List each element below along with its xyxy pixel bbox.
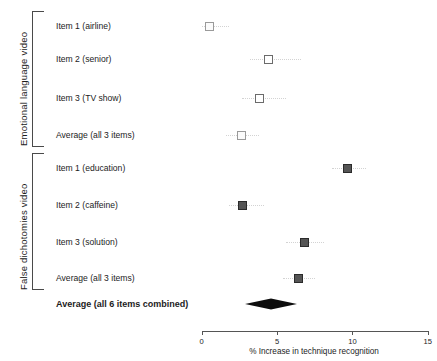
- x-axis-tick-5: [277, 331, 278, 335]
- row-label-item-1-education: Item 1 (education): [56, 164, 125, 173]
- marker-item-2-senior: [264, 55, 273, 64]
- whisker-item-2-senior: [250, 59, 301, 60]
- group-title-false-dichotomies-video: False dichotomies video: [18, 183, 29, 290]
- marker-average-emotional: [237, 131, 246, 140]
- group-bracket-false-dichotomies-video: [32, 153, 44, 290]
- row-label-item-2-caffeine: Item 2 (caffeine): [56, 201, 118, 210]
- x-axis-tick-15: [428, 331, 429, 335]
- row-label-item-1-airline: Item 1 (airline): [56, 22, 111, 31]
- row-label-average-emotional: Average (all 3 items): [56, 131, 135, 140]
- marker-item-3-solution: [300, 238, 309, 247]
- x-axis-tick-label-15: 15: [423, 337, 431, 346]
- marker-item-1-airline: [205, 22, 214, 31]
- x-axis-tick-label-0: 0: [200, 337, 204, 346]
- x-axis-tick-10: [352, 331, 353, 335]
- x-axis-tick-label-10: 10: [348, 337, 356, 346]
- group-bracket-emotional-language-video: [32, 11, 44, 147]
- whisker-item-3-tv-show: [242, 98, 286, 99]
- marker-item-1-education: [343, 164, 352, 173]
- row-label-item-2-senior: Item 2 (senior): [56, 55, 111, 64]
- summary-diamond-marker: [245, 297, 297, 311]
- row-label-item-3-tv-show: Item 3 (TV show): [56, 94, 121, 103]
- x-axis-tick-0: [202, 331, 203, 335]
- row-label-average-all-6-combined: Average (all 6 items combined): [56, 300, 188, 309]
- x-axis-title: % Increase in technique recognition: [249, 347, 379, 356]
- marker-average-false-dichotomies: [294, 274, 303, 283]
- group-title-emotional-language-video: Emotional language video: [18, 32, 29, 146]
- forest-plot-figure: Emotional language video Item 1 (airline…: [0, 0, 437, 361]
- row-label-average-false-dichotomies: Average (all 3 items): [56, 274, 135, 283]
- x-axis-line: [202, 331, 428, 332]
- marker-item-2-caffeine: [238, 201, 247, 210]
- x-axis-tick-label-5: 5: [275, 337, 279, 346]
- marker-item-3-tv-show: [255, 94, 264, 103]
- row-label-item-3-solution: Item 3 (solution): [56, 238, 118, 247]
